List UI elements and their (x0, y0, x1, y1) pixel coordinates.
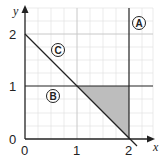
x-tick-1: 1 (73, 143, 80, 158)
y-tick-2: 2 (9, 27, 16, 42)
graph-diagram: 0 1 2 0 1 2 x y A B C (0, 0, 167, 166)
label-b: B (47, 90, 60, 103)
svg-text:B: B (49, 91, 56, 102)
y-axis-label: y (12, 4, 19, 18)
svg-text:A: A (135, 18, 142, 29)
x-axis-label: x (152, 140, 159, 154)
label-c: C (52, 44, 65, 57)
x-tick-2: 2 (125, 143, 132, 158)
y-tick-0: 0 (9, 132, 16, 147)
y-axis-arrow-icon (22, 5, 29, 13)
coordinate-plane: 0 1 2 0 1 2 x y A B C (0, 0, 167, 166)
label-a: A (133, 17, 146, 30)
axes (25, 11, 150, 139)
x-tick-0: 0 (21, 143, 28, 158)
svg-text:C: C (54, 45, 61, 56)
y-tick-1: 1 (9, 79, 16, 94)
